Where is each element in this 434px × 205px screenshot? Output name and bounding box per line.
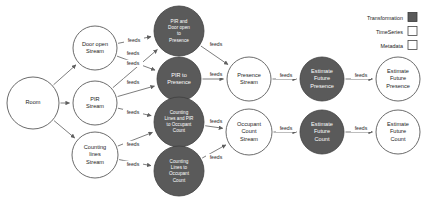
- legend-label: Transformation: [367, 15, 403, 21]
- edge-label: feeds: [127, 109, 140, 115]
- legend-item-transformation[interactable]: Transformation: [367, 13, 417, 22]
- node-label-line: Presence: [169, 38, 189, 43]
- edge-label: feeds: [127, 50, 140, 56]
- node-counting-lines-and-pir-to-occupant-count[interactable]: CountingLines and PIRto OccupantCount: [154, 97, 204, 147]
- edge-label: feeds: [210, 118, 223, 124]
- node-label-line: Room: [26, 99, 41, 105]
- edge-counting-lines-and-pir-to-occupant-count-to-occupant-count-stream: [205, 126, 223, 129]
- node-label-line: Presence: [310, 83, 334, 89]
- node-counting-lines-to-occupant-count[interactable]: CountingLines toOccupantCount: [154, 146, 204, 196]
- edge-label-group: feeds: [123, 161, 143, 168]
- node-label-line: Estimate: [311, 121, 333, 127]
- node-estimate-future-count-stream[interactable]: EstimateFutureCount: [376, 110, 420, 154]
- legend-item-timeseries[interactable]: TimeSeries: [376, 27, 417, 36]
- legend-swatch: [408, 27, 417, 36]
- edge-label-group: feeds: [206, 154, 226, 161]
- node-label-line: Stream: [86, 103, 104, 109]
- node-occupant-count-stream[interactable]: OccupantCountStream: [226, 109, 272, 155]
- node-label-line: Presence: [237, 72, 261, 78]
- node-label-line: Lines and PIR: [165, 116, 195, 121]
- node-pir-to-presence[interactable]: PIR toPresence: [157, 57, 201, 101]
- edge-pir-and-door-open-to-presence-to-presence-stream: [201, 46, 228, 65]
- node-label-line: to Occupant: [167, 122, 192, 127]
- node-label-line: Future: [390, 128, 406, 134]
- edge-label-group: feeds: [124, 37, 144, 44]
- node-label-line: Stream: [240, 79, 258, 85]
- edge-label-group: feeds: [351, 72, 371, 79]
- node-label-line: PIR and: [171, 19, 188, 24]
- node-label-line: Estimate: [387, 68, 409, 74]
- edge-label: feeds: [128, 37, 141, 43]
- edge-label-group: feeds: [123, 50, 143, 57]
- edge-label-group: feeds: [276, 125, 296, 132]
- edge-label: feeds: [280, 72, 293, 78]
- node-label-line: Estimate: [387, 121, 409, 127]
- node-door-open-stream[interactable]: Door openStream: [73, 26, 117, 70]
- node-label-line: Future: [314, 128, 330, 134]
- edge-label: feeds: [210, 71, 223, 77]
- node-label-line: Estimate: [311, 68, 333, 74]
- edge-pir-stream-to-pir-to-presence: [118, 86, 155, 97]
- node-label-line: Count: [173, 178, 186, 183]
- node-label-line: lines: [89, 151, 101, 157]
- edge-label-group: feeds: [123, 60, 143, 67]
- pipeline-graph: RoomDoor openStreamPIRStreamCountingline…: [0, 0, 434, 205]
- node-estimate-future-presence-stream[interactable]: EstimateFuturePresence: [376, 57, 420, 101]
- node-label-line: PIR to: [171, 72, 187, 78]
- node-label-line: Counting: [170, 110, 189, 115]
- edge-label: feeds: [280, 125, 293, 131]
- edge-label: feeds: [127, 161, 140, 167]
- edge-label-group: feeds: [351, 125, 371, 132]
- node-label-line: Counting: [170, 159, 189, 164]
- node-label-line: Stream: [86, 159, 104, 165]
- node-label-line: Future: [390, 75, 406, 81]
- node-label-line: Future: [314, 75, 330, 81]
- node-label-line: Occupant: [169, 171, 190, 176]
- edge-label: feeds: [210, 41, 223, 47]
- edge-label: feeds: [210, 154, 223, 160]
- edge-label: feeds: [127, 79, 140, 85]
- node-presence-stream[interactable]: PresenceStream: [227, 57, 271, 101]
- legend-swatch: [408, 41, 417, 50]
- nodes-layer: RoomDoor openStreamPIRStreamCountingline…: [7, 6, 420, 196]
- node-label-line: Occupant: [237, 121, 261, 127]
- edge-room-to-counting-lines-stream: [54, 121, 75, 138]
- edge-label: feeds: [355, 125, 368, 131]
- legend-swatch: [408, 13, 417, 22]
- legend: TransformationTimeSeriesMetadata: [367, 13, 417, 50]
- node-label-line: Presence: [167, 79, 191, 85]
- edge-label-group: feeds: [206, 41, 226, 48]
- node-counting-lines-stream[interactable]: CountinglinesStream: [72, 132, 118, 178]
- edge-label-group: feeds: [206, 118, 226, 125]
- node-label-line: PIR: [90, 96, 99, 102]
- node-label-line: to: [177, 31, 181, 36]
- node-estimate-future-presence-transform[interactable]: EstimateFuturePresence: [300, 57, 344, 101]
- node-label-line: Counting: [84, 144, 106, 150]
- node-estimate-future-count-transform[interactable]: EstimateFutureCount: [300, 110, 344, 154]
- node-label-line: Door open: [168, 25, 190, 30]
- edge-label-group: feeds: [123, 141, 143, 148]
- edge-label: feeds: [127, 60, 140, 66]
- node-room[interactable]: Room: [7, 77, 59, 129]
- edge-label: feeds: [355, 72, 368, 78]
- edge-label-group: feeds: [123, 79, 143, 86]
- node-pir-and-door-open-to-presence[interactable]: PIR andDoor opentoPresence: [154, 6, 204, 56]
- diagram-canvas: RoomDoor openStreamPIRStreamCountingline…: [0, 0, 434, 205]
- edge-label-group: feeds: [123, 109, 143, 116]
- edge-room-to-door-open-stream: [54, 65, 76, 85]
- node-label-line: Door open: [82, 41, 108, 47]
- node-label-line: Count: [315, 136, 330, 142]
- node-label-line: Presence: [386, 83, 410, 89]
- legend-label: TimeSeries: [376, 29, 403, 35]
- legend-label: Metadata: [381, 43, 403, 49]
- node-label-line: Count: [391, 136, 406, 142]
- edge-label-group: feeds: [206, 71, 226, 78]
- node-label-line: Stream: [240, 136, 258, 142]
- node-pir-stream[interactable]: PIRStream: [73, 81, 117, 125]
- node-label-line: Stream: [86, 48, 104, 54]
- node-label-line: Count: [242, 128, 257, 134]
- node-label-line: Lines to: [171, 165, 188, 170]
- edge-label-group: feeds: [276, 72, 296, 79]
- legend-item-metadata[interactable]: Metadata: [381, 41, 417, 50]
- edge-label: feeds: [127, 141, 140, 147]
